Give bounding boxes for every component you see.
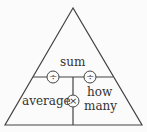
divide-right-symbol: ÷ [86, 71, 94, 83]
multiply-symbol: × [69, 95, 77, 107]
average-label: average [22, 95, 71, 107]
many-label: many [84, 100, 117, 112]
how-label: how [87, 86, 112, 98]
sum-label: sum [60, 56, 85, 68]
divide-left-symbol: ÷ [49, 71, 57, 83]
